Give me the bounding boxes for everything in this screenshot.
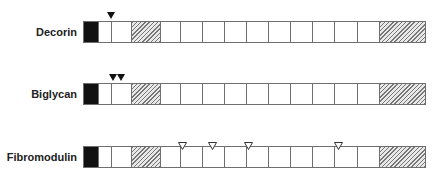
domain-cell-white [312,146,335,168]
domain-cell-black [83,21,99,43]
domain-bar [83,83,426,105]
domain-cell-white [290,83,313,105]
filled-triangle-marker-icon [117,74,125,81]
row-label: Fibromodulin [7,146,77,168]
domain-cell-white [246,21,269,43]
domain-cell-white [224,83,247,105]
domain-cell-white [98,83,112,105]
row-label: Biglycan [31,83,77,105]
domain-cell-white [202,21,225,43]
open-triangle-marker-icon [178,136,187,144]
domain-cell-white [180,83,203,105]
filled-triangle-marker-icon [107,12,115,19]
domain-cell-white [357,83,380,105]
row-label: Decorin [36,21,77,43]
domain-cell-white [334,21,358,43]
filled-triangle-marker-icon [109,74,117,81]
domain-cell-white [111,146,132,168]
domain-cell-hatch [131,21,161,43]
domain-cell-hatch [379,83,426,105]
domain-cell-white [268,146,291,168]
domain-bar [83,21,426,43]
domain-cell-white [111,21,132,43]
domain-cell-black [83,146,99,168]
domain-cell-hatch [131,83,161,105]
domain-cell-white [246,83,269,105]
domain-cell-white [312,83,335,105]
domain-cell-white [224,21,247,43]
row-biglycan: Biglycan [0,83,445,123]
domain-cell-white [290,146,313,168]
domain-cell-hatch [131,146,161,168]
domain-cell-white [180,21,203,43]
domain-cell-white [160,83,181,105]
domain-bar [83,146,426,168]
domain-cell-white [111,83,132,105]
domain-cell-white [98,21,112,43]
open-triangle-marker-icon [208,136,217,144]
open-triangle-marker-icon [244,136,253,144]
domain-cell-white [160,21,181,43]
open-triangle-marker-icon [334,136,343,144]
row-fibromodulin: Fibromodulin [0,146,445,178]
domain-cell-white [98,146,112,168]
domain-cell-white [312,21,335,43]
domain-cell-white [268,21,291,43]
domain-cell-white [357,146,380,168]
domain-cell-white [357,21,380,43]
domain-cell-black [83,83,99,105]
domain-cell-white [268,83,291,105]
domain-cell-white [290,21,313,43]
row-decorin: Decorin [0,21,445,61]
domain-cell-hatch [379,21,426,43]
domain-cell-hatch [379,146,426,168]
domain-cell-white [334,83,358,105]
domain-cell-white [202,83,225,105]
